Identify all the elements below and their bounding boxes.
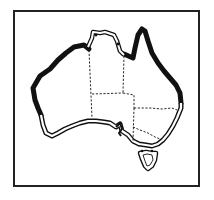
australia-map <box>0 0 214 200</box>
mainland-land <box>33 28 181 146</box>
marker-icon <box>117 43 120 46</box>
marker-icon <box>141 150 144 153</box>
marker-icon <box>151 150 154 153</box>
marker-icon <box>95 34 98 37</box>
